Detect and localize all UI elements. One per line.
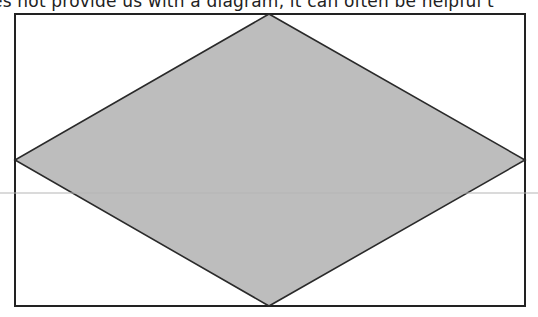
rhombus-diagram (0, 0, 538, 317)
